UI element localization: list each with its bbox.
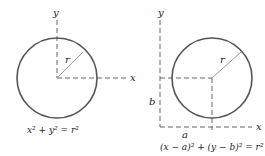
radius-line bbox=[57, 52, 83, 78]
x-axis-label: x bbox=[256, 121, 262, 132]
origin-circle-diagram: y x r x² + y² = r² bbox=[17, 7, 136, 135]
radius-label: r bbox=[220, 54, 226, 65]
offset-a-label: a bbox=[182, 129, 188, 140]
equation: x² + y² = r² bbox=[27, 125, 79, 135]
equation: (x − a)² + (y − b)² = r² bbox=[160, 142, 264, 152]
y-axis-label: y bbox=[157, 7, 164, 18]
radius-line bbox=[212, 52, 241, 78]
offset-b-label: b bbox=[149, 96, 155, 107]
shifted-circle-diagram: y x r b a (x − a)² + (y − b)² = r² bbox=[149, 7, 264, 152]
y-axis-label: y bbox=[52, 7, 59, 18]
circle-equations-figure: y x r x² + y² = r² y x r b a (x − a)² + … bbox=[0, 0, 265, 156]
radius-label: r bbox=[65, 54, 71, 65]
x-axis-label: x bbox=[130, 72, 136, 83]
